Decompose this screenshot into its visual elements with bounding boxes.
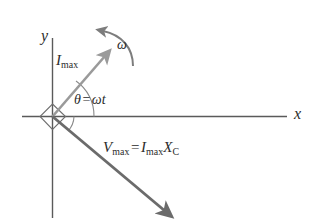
current-phasor-subscript: max [61, 59, 78, 70]
voltage-equation: Vmax=ImaxXC [103, 140, 179, 155]
equation-equals-sign: = [129, 139, 140, 155]
theta-equals-sign: = [81, 92, 92, 107]
voltage-phasor-arrow [53, 117, 166, 212]
reactance-subscript: C [172, 146, 179, 157]
y-axis-label: y [41, 28, 48, 44]
x-axis-label: x [294, 106, 301, 122]
time-symbol: t [102, 92, 106, 107]
voltage-subscript: max [112, 146, 129, 157]
equation-current-subscript: max [146, 146, 163, 157]
omega-rotation-label: ω [117, 38, 127, 52]
figure-canvas: y x Imax ω θ=ωt Vmax=ImaxXC [0, 0, 317, 223]
theta-symbol: θ [74, 92, 81, 107]
omega-symbol: ω [92, 92, 102, 107]
current-phasor-label: Imax [56, 53, 78, 68]
theta-annotation: θ=ωt [74, 93, 106, 107]
voltage-symbol: V [103, 139, 112, 155]
